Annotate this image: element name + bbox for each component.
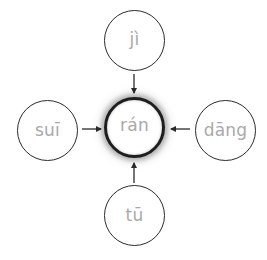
node-center: rán bbox=[104, 97, 165, 158]
node-top-label: jì bbox=[130, 31, 140, 48]
node-bottom: tū bbox=[104, 185, 165, 246]
pinyin-compound-diagram: jì suī dāng tū rán bbox=[0, 0, 267, 260]
node-right-label: dāng bbox=[204, 122, 248, 139]
node-right: dāng bbox=[195, 100, 256, 161]
node-left-label: suī bbox=[35, 122, 60, 139]
node-bottom-label: tū bbox=[126, 207, 144, 224]
node-top: jì bbox=[104, 10, 165, 71]
node-left: suī bbox=[17, 100, 78, 161]
node-center-label: rán bbox=[120, 117, 149, 134]
